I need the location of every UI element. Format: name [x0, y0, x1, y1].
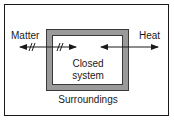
- heat-label: Heat: [139, 30, 160, 41]
- matter-label: Matter: [11, 30, 39, 41]
- closed-system-label-line2: system: [62, 70, 114, 81]
- matter-arrow: [20, 43, 76, 51]
- closed-system-label-line1: Closed: [62, 58, 114, 69]
- surroundings-label: Surroundings: [48, 94, 128, 105]
